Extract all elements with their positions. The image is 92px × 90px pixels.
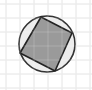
diagram-canvas [0, 0, 92, 90]
inscribed-square-diagram [0, 0, 92, 90]
